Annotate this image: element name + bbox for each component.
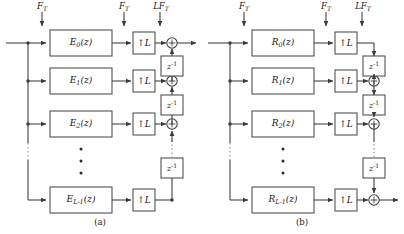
delay-block-b-0: z-1 — [369, 61, 379, 71]
upsampler-b-last: ↑L — [339, 196, 353, 205]
rate-label-b-3: LFT — [355, 2, 371, 12]
filter-block-b-1: R1(z) — [272, 76, 295, 86]
panel-caption-b: (b) — [296, 218, 308, 227]
delay-block-b-last: z-1 — [369, 163, 379, 173]
delay-block-a-last: z-1 — [167, 163, 177, 173]
filter-block-b-0: R0(z) — [272, 38, 295, 48]
upsampler-b-2: ↑L — [339, 120, 353, 129]
filter-block-a-2: E2(z) — [70, 119, 92, 129]
filter-block-a-0: E0(z) — [70, 38, 92, 48]
upsampler-a-2: ↑L — [137, 120, 151, 129]
filter-block-a-last: EL-1(z) — [67, 195, 96, 205]
rate-label-a-2: FT — [119, 2, 129, 12]
rate-label-b-2: FT — [321, 2, 331, 12]
upsampler-a-1: ↑L — [137, 77, 151, 86]
rate-label-b-1: FT — [239, 2, 249, 12]
rate-label-a-3: LFT — [153, 2, 169, 12]
delay-block-b-1: z-1 — [369, 100, 379, 110]
rate-label-a-1: FT — [37, 2, 47, 12]
filter-block-a-1: E1(z) — [70, 76, 92, 86]
upsampler-a-0: ↑L — [137, 39, 151, 48]
upsampler-b-1: ↑L — [339, 77, 353, 86]
panel-b-input-bus — [208, 43, 248, 200]
panel-a-input-bus — [6, 43, 46, 200]
upsampler-b-0: ↑L — [339, 39, 353, 48]
filter-block-b-2: R2(z) — [272, 119, 295, 129]
delay-block-a-1: z-1 — [167, 100, 177, 110]
figure-canvas: FT FT LFT E0(z) E1(z) E2(z) EL-1(z) ↑L ↑… — [0, 0, 404, 234]
filter-block-b-last: RL-1(z) — [268, 195, 297, 205]
delay-block-a-0: z-1 — [167, 61, 177, 71]
upsampler-a-last: ↑L — [137, 196, 151, 205]
panel-caption-a: (a) — [94, 218, 106, 227]
